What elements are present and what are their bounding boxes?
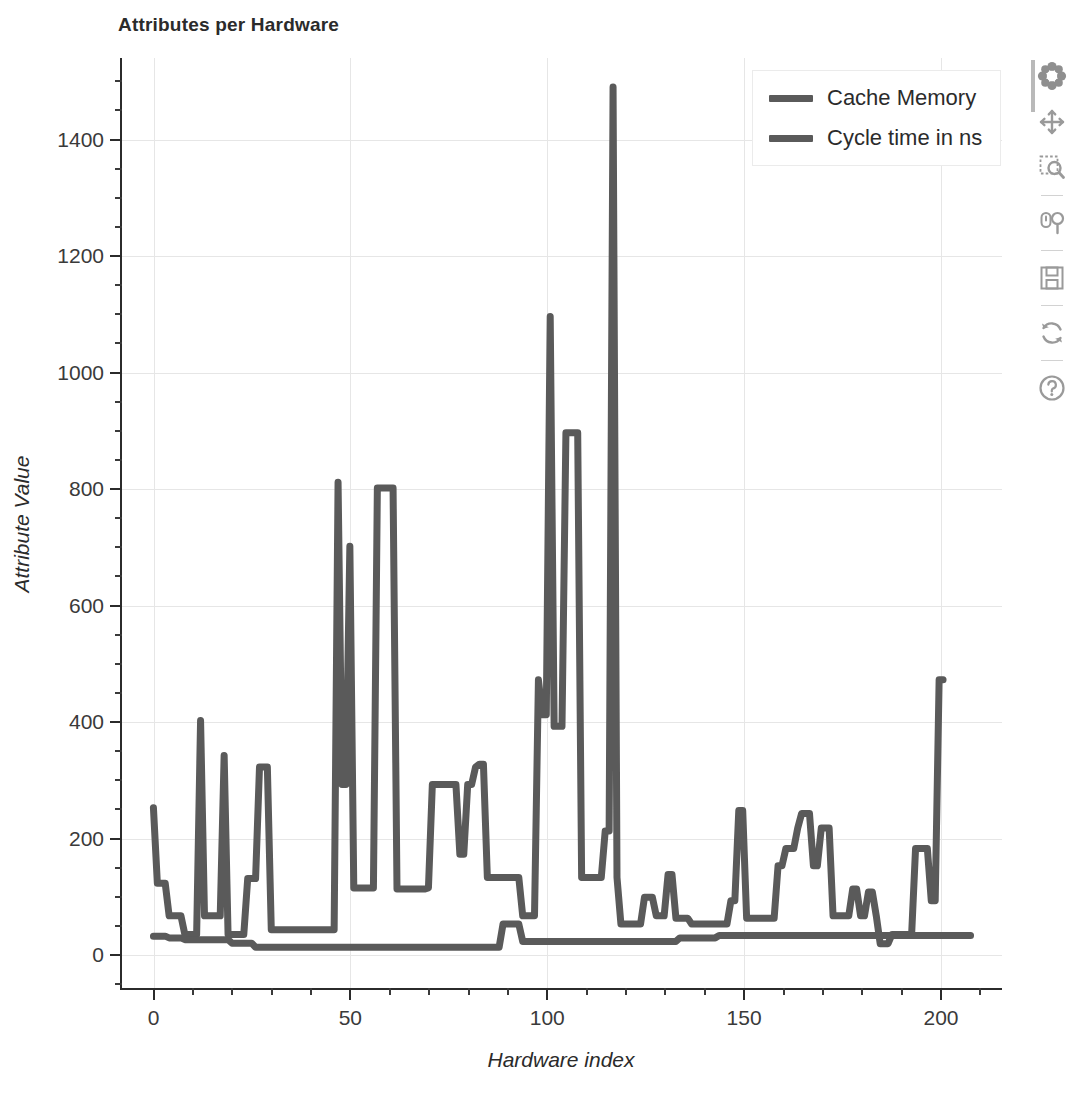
legend-item[interactable]: Cycle time in ns (769, 125, 982, 151)
plot-frame[interactable]: 0200400600800100012001400050100150200 (120, 58, 1002, 990)
legend-swatch-icon (769, 95, 813, 102)
x-axis-minor-tick (822, 988, 824, 995)
x-axis-minor-tick (704, 988, 706, 995)
y-axis-minor-tick (115, 750, 122, 752)
y-axis-label: Attribute Value (10, 456, 34, 593)
x-axis-minor-tick (979, 988, 981, 995)
y-axis-tick (110, 488, 122, 490)
y-axis-tick-label: 1000 (57, 361, 104, 385)
y-axis-minor-tick (115, 109, 122, 111)
y-axis-minor-tick (115, 808, 122, 810)
y-axis-tick (110, 721, 122, 723)
toolbar-separator (1041, 250, 1063, 251)
y-axis-minor-tick (115, 459, 122, 461)
y-axis-minor-tick (115, 168, 122, 170)
x-axis-minor-tick (192, 988, 194, 995)
x-axis-tick-label: 100 (530, 1006, 565, 1030)
x-axis-minor-tick (586, 988, 588, 995)
x-axis-label: Hardware index (487, 1048, 634, 1072)
y-axis-tick-label: 800 (69, 477, 104, 501)
y-axis-minor-tick (115, 896, 122, 898)
legend-label: Cycle time in ns (827, 125, 982, 151)
y-axis-minor-tick (115, 517, 122, 519)
x-axis-tick-label: 150 (727, 1006, 762, 1030)
pan-tool[interactable] (1032, 102, 1072, 142)
y-axis-tick-label: 600 (69, 594, 104, 618)
legend-swatch-icon (769, 135, 813, 142)
toolbar-separator (1041, 305, 1063, 306)
y-axis-minor-tick (115, 80, 122, 82)
x-axis-minor-tick (468, 988, 470, 995)
plot-toolbar[interactable] (1029, 56, 1075, 408)
y-axis-minor-tick (115, 430, 122, 432)
y-axis-tick (110, 139, 122, 141)
y-axis-tick (110, 838, 122, 840)
page-title: Attributes per Hardware (118, 14, 339, 36)
y-axis-tick-label: 200 (69, 827, 104, 851)
legend-label: Cache Memory (827, 85, 976, 111)
y-axis-tick (110, 605, 122, 607)
x-axis-minor-tick (901, 988, 903, 995)
y-axis-tick (110, 372, 122, 374)
x-axis-minor-tick (664, 988, 666, 995)
y-axis-tick-label: 0 (92, 943, 104, 967)
x-axis-minor-tick (625, 988, 627, 995)
y-axis-minor-tick (115, 284, 122, 286)
bokeh-plot-root: Attributes per Hardware 0200400600800100… (0, 0, 1079, 1095)
x-axis-tick (349, 988, 351, 1000)
x-axis-tick (153, 988, 155, 1000)
help-tool[interactable] (1032, 368, 1072, 408)
y-axis-tick-label: 400 (69, 710, 104, 734)
x-axis-tick-label: 50 (339, 1006, 362, 1030)
y-axis-minor-tick (115, 342, 122, 344)
y-axis-minor-tick (115, 867, 122, 869)
x-axis-minor-tick (389, 988, 391, 995)
wheel-zoom-tool[interactable] (1032, 203, 1072, 243)
y-axis-minor-tick (115, 663, 122, 665)
toolbar-separator (1041, 195, 1063, 196)
x-axis-minor-tick (310, 988, 312, 995)
x-axis-tick (743, 988, 745, 1000)
y-axis-minor-tick (115, 401, 122, 403)
reset-tool[interactable] (1032, 313, 1072, 353)
y-axis-minor-tick (115, 226, 122, 228)
x-axis-minor-tick (783, 988, 785, 995)
x-axis-tick (940, 988, 942, 1000)
x-axis-minor-tick (861, 988, 863, 995)
series-line-1 (153, 87, 943, 944)
y-axis-minor-tick (115, 692, 122, 694)
x-axis-minor-tick (271, 988, 273, 995)
y-axis-tick (110, 954, 122, 956)
y-axis-minor-tick (115, 779, 122, 781)
y-axis-tick-label: 1400 (57, 128, 104, 152)
x-axis-tick-label: 200 (923, 1006, 958, 1030)
y-axis-minor-tick (115, 634, 122, 636)
toolbar-separator (1041, 360, 1063, 361)
x-axis-minor-tick (428, 988, 430, 995)
bokeh-logo-icon (1032, 56, 1072, 96)
y-axis-minor-tick (115, 983, 122, 985)
x-axis-tick-label: 0 (148, 1006, 160, 1030)
x-axis-tick (546, 988, 548, 1000)
save-tool[interactable] (1032, 258, 1072, 298)
y-axis-tick-label: 1200 (57, 244, 104, 268)
y-axis-minor-tick (115, 197, 122, 199)
y-axis-minor-tick (115, 313, 122, 315)
box-zoom-tool[interactable] (1032, 148, 1072, 188)
x-axis-minor-tick (507, 988, 509, 995)
legend-item[interactable]: Cache Memory (769, 85, 982, 111)
y-axis-minor-tick (115, 925, 122, 927)
legend: Cache MemoryCycle time in ns (752, 70, 1001, 166)
data-layer (122, 58, 1002, 988)
y-axis-tick (110, 255, 122, 257)
x-axis-minor-tick (231, 988, 233, 995)
y-axis-minor-tick (115, 546, 122, 548)
y-axis-minor-tick (115, 575, 122, 577)
